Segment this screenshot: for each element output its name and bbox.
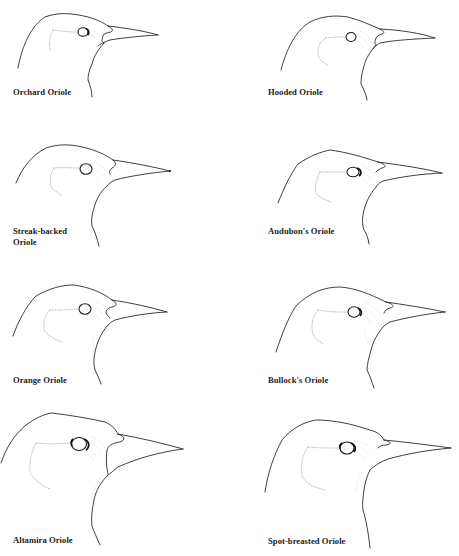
bird-label-bullocks-oriole: Bullock's Oriole xyxy=(268,375,328,386)
hooded-oriole-head-drawing xyxy=(230,0,459,130)
bird-panel-altamira-oriole: Altamira Oriole xyxy=(0,400,230,556)
bird-label-streak-backed-oriole-line1: Streak-backed xyxy=(13,226,67,237)
oriole-head-comparison-plate: Orchard Oriole Hooded Oriole xyxy=(0,0,459,556)
bird-panel-bullocks-oriole: Bullock's Oriole xyxy=(230,270,459,400)
streak-backed-oriole-head-drawing xyxy=(0,130,230,270)
spot-breasted-oriole-head-drawing xyxy=(230,400,459,556)
altamira-oriole-head-drawing xyxy=(0,400,230,556)
orchard-oriole-head-drawing xyxy=(0,0,230,130)
bird-label-hooded-oriole: Hooded Oriole xyxy=(268,87,323,98)
bird-label-streak-backed-oriole-line2: Oriole xyxy=(13,237,37,248)
bird-label-orchard-oriole: Orchard Oriole xyxy=(13,87,71,98)
bird-panel-streak-backed-oriole: Streak-backed Oriole xyxy=(0,130,230,270)
bird-panel-hooded-oriole: Hooded Oriole xyxy=(230,0,459,130)
bird-label-spot-breasted-oriole: Spot-breasted Oriole xyxy=(268,536,345,547)
bird-label-altamira-oriole: Altamira Oriole xyxy=(13,535,73,546)
bird-panel-spot-breasted-oriole: Spot-breasted Oriole xyxy=(230,400,459,556)
bird-panel-audubons-oriole: Audubon's Oriole xyxy=(230,130,459,270)
bird-label-audubons-oriole: Audubon's Oriole xyxy=(268,226,334,237)
bullocks-oriole-head-drawing xyxy=(230,270,459,400)
audubons-oriole-head-drawing xyxy=(230,130,459,270)
bird-panel-orange-oriole: Orange Oriole xyxy=(0,270,230,400)
bird-label-orange-oriole: Orange Oriole xyxy=(13,375,67,386)
bird-panel-orchard-oriole: Orchard Oriole xyxy=(0,0,230,130)
